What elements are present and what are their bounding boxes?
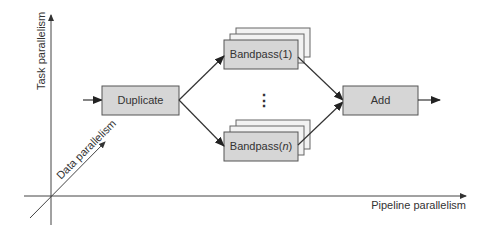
- task-axis-label: Task parallelism: [35, 12, 47, 90]
- duplicate-label: Duplicate: [118, 94, 164, 106]
- data-axis: [30, 142, 105, 218]
- bandpass-n-label: Bandpass(n): [230, 140, 292, 152]
- edge-duplicate-bandpass1: [179, 56, 224, 100]
- add-node: Add: [343, 86, 418, 115]
- parallelism-diagram: Task parallelism Data parallelism Pipeli…: [0, 0, 487, 236]
- bandpass-1-label: Bandpass(1): [230, 48, 292, 60]
- edge-duplicate-bandpassn: [179, 100, 224, 146]
- data-axis-label: Data parallelism: [54, 117, 118, 181]
- bandpass-1-node: Bandpass(1): [224, 28, 310, 69]
- edge-bandpass1-add: [298, 57, 343, 100]
- duplicate-node: Duplicate: [102, 86, 179, 115]
- add-label: Add: [371, 94, 391, 106]
- bandpass-n-node: Bandpass(n): [224, 120, 310, 161]
- ellipsis: ⋮: [256, 92, 272, 109]
- pipeline-axis-label: Pipeline parallelism: [371, 199, 466, 211]
